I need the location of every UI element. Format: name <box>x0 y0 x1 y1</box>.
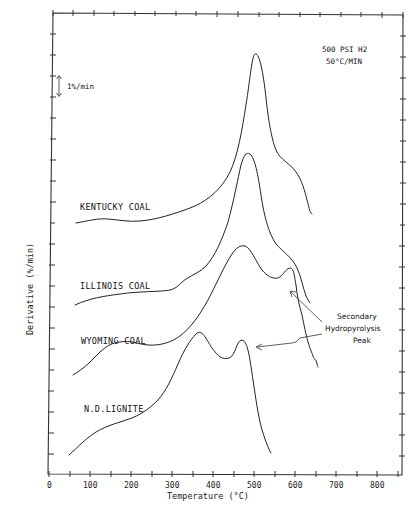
annotation-line2: Hydropyrolysis <box>325 324 381 333</box>
label-illinois-coal: ILLINOIS COAL <box>80 281 150 291</box>
annotation-line1: Secondary <box>337 312 377 321</box>
annotation-line3: Peak <box>353 336 371 345</box>
y-axis-title: Derivative (%/min) <box>25 243 35 335</box>
x-tick-0: 0 <box>47 481 52 490</box>
x-tick-500: 500 <box>247 481 262 490</box>
curve-nd-lignite <box>69 332 271 455</box>
x-tick-400: 400 <box>206 481 221 490</box>
x-tick-labels: 0 100 200 300 400 500 600 700 800 <box>47 481 385 490</box>
scale-bar-label: 1%/min <box>67 82 94 91</box>
scale-bar: 1%/min <box>57 76 95 97</box>
x-tick-100: 100 <box>83 481 98 490</box>
annotation-arrows <box>256 291 322 350</box>
conditions-pressure: 500 PSI H2 <box>322 45 367 54</box>
conditions-heating-rate: 50°C/MIN <box>326 57 362 66</box>
label-wyoming-coal: WYOMING COAL <box>81 336 146 346</box>
x-tick-600: 600 <box>288 481 303 490</box>
left-ticks <box>48 34 56 454</box>
x-tick-200: 200 <box>124 481 139 490</box>
curve-kentucky-coal <box>76 54 312 223</box>
x-tick-300: 300 <box>165 481 180 490</box>
label-kentucky-coal: KENTUCKY COAL <box>80 202 150 212</box>
x-tick-800: 800 <box>370 481 385 490</box>
x-tick-700: 700 <box>329 481 344 490</box>
x-axis-title: Temperature (°C) <box>167 491 249 501</box>
label-nd-lignite: N.D.LIGNITE <box>84 404 144 414</box>
right-ticks <box>399 36 406 456</box>
dtg-chart: 0 100 200 300 400 500 600 700 800 Temper… <box>0 0 409 506</box>
curve-wyoming-coal <box>73 246 318 375</box>
